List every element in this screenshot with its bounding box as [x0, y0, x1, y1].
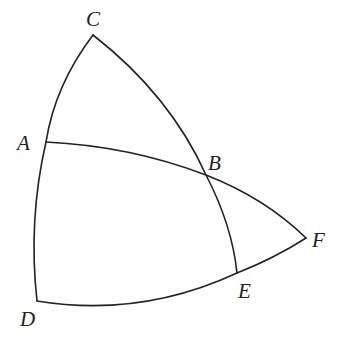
label-point-A: A — [15, 131, 30, 155]
label-point-C: C — [86, 7, 101, 31]
label-point-E: E — [237, 279, 251, 303]
label-point-D: D — [19, 307, 35, 331]
label-point-B: B — [208, 151, 221, 175]
spherical-triangle-diagram: C A B F E D — [0, 0, 346, 342]
label-point-F: F — [311, 228, 325, 252]
arc-D-E-F — [37, 238, 306, 306]
arc-A-B-F — [46, 142, 306, 238]
arc-C-A-D — [34, 35, 93, 301]
